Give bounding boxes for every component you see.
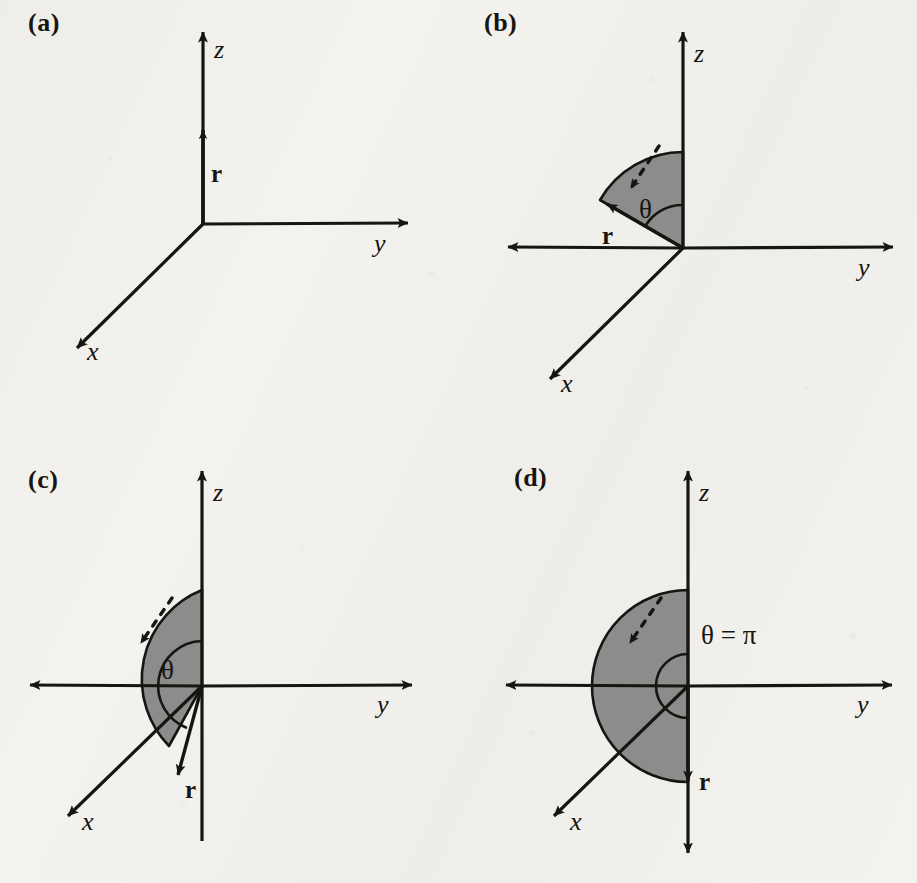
panel-a-y-axis: [203, 223, 408, 224]
figure-canvas: (a) z y x r (b): [0, 0, 917, 883]
panel-a-r-label: r: [211, 160, 222, 187]
panel-b-label: (b): [484, 8, 517, 38]
panel-d-x-axis-label: x: [569, 807, 582, 836]
panel-c-diagram: z y x r θ: [0, 441, 459, 883]
panel-d-y-axis-positive: [688, 685, 892, 686]
panel-a-label: (a): [28, 8, 60, 38]
panel-c-x-axis-label: x: [81, 807, 94, 836]
panel-a-diagram: z y x r: [0, 0, 459, 441]
panel-d-z-axis-label: z: [698, 478, 709, 507]
panel-d-y-axis-negative: [506, 685, 688, 686]
panel-a-y-axis-label: y: [371, 229, 386, 258]
panel-d-diagram: z y x r θ = π: [459, 441, 917, 883]
panel-d-r-label: r: [699, 768, 710, 795]
panel-d-y-axis-label: y: [854, 690, 869, 719]
panel-c-y-axis-label: y: [374, 690, 389, 719]
panel-b-x-axis-label: x: [560, 369, 573, 398]
panel-c-y-axis-negative: [30, 685, 202, 686]
panel-a-x-axis: [77, 224, 203, 348]
panel-b-y-axis-label: y: [855, 253, 870, 282]
panel-a-x-axis-label: x: [86, 337, 99, 366]
panel-c-y-axis-positive: [202, 685, 412, 686]
panel-a: (a) z y x r: [0, 0, 459, 441]
panel-b-y-axis-negative: [508, 247, 683, 248]
panel-a-z-axis-label: z: [213, 35, 224, 64]
panel-b-z-axis-label: z: [693, 39, 704, 68]
panel-b: (b) z y x: [459, 0, 917, 441]
panel-c: (c) z y x: [0, 441, 459, 883]
panel-d: (d) z y x: [459, 441, 917, 883]
panel-c-z-axis-label: z: [212, 478, 223, 507]
panel-d-label: (d): [514, 463, 547, 493]
panel-c-r-label: r: [185, 776, 196, 803]
panel-c-x-axis: [68, 686, 202, 816]
panel-b-diagram: z y x r θ: [459, 0, 917, 441]
panel-b-r-label: r: [602, 222, 613, 249]
panel-b-x-axis: [550, 248, 683, 379]
panel-c-label: (c): [28, 465, 58, 495]
panel-c-theta-label: θ: [161, 655, 174, 685]
panel-d-theta-label: θ = π: [701, 620, 757, 650]
panel-b-theta-label: θ: [639, 194, 652, 224]
panel-b-y-axis-positive: [683, 247, 893, 248]
